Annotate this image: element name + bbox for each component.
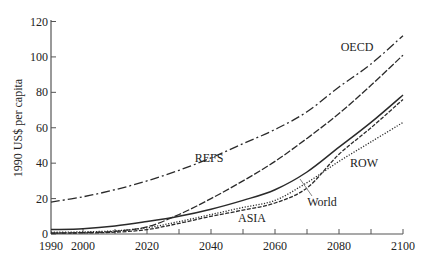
- y-axis-label: 1990 US$ per capita: [11, 78, 25, 177]
- label-oecd: OECD: [341, 40, 374, 54]
- x-tick-label: 2000: [71, 239, 95, 253]
- y-tick-label: 40: [36, 156, 48, 170]
- label-world: World: [307, 195, 337, 209]
- x-tick-label: 1990: [39, 239, 63, 253]
- label-refs: REFS: [195, 151, 224, 165]
- y-tick-label: 20: [36, 192, 48, 206]
- y-ticks: 020406080100120: [30, 15, 56, 242]
- series-lines: [51, 36, 403, 233]
- x-tick-label: 2020: [135, 239, 159, 253]
- x-tick-label: 2060: [263, 239, 287, 253]
- x-tick-label: 2100: [391, 239, 415, 253]
- series-line-oecd: [51, 36, 403, 202]
- y-tick-label: 100: [30, 50, 48, 64]
- y-tick-label: 60: [36, 121, 48, 135]
- series-line-refs: [51, 55, 403, 233]
- x-tick-label: 2040: [199, 239, 223, 253]
- label-asia: ASIA: [238, 211, 266, 225]
- world-leader-line: [300, 179, 312, 196]
- line-chart: 020406080100120 199020002020204020602080…: [0, 0, 427, 265]
- y-tick-label: 120: [30, 15, 48, 29]
- label-row: ROW: [350, 156, 379, 170]
- x-tick-label: 2080: [327, 239, 351, 253]
- y-tick-label: 80: [36, 85, 48, 99]
